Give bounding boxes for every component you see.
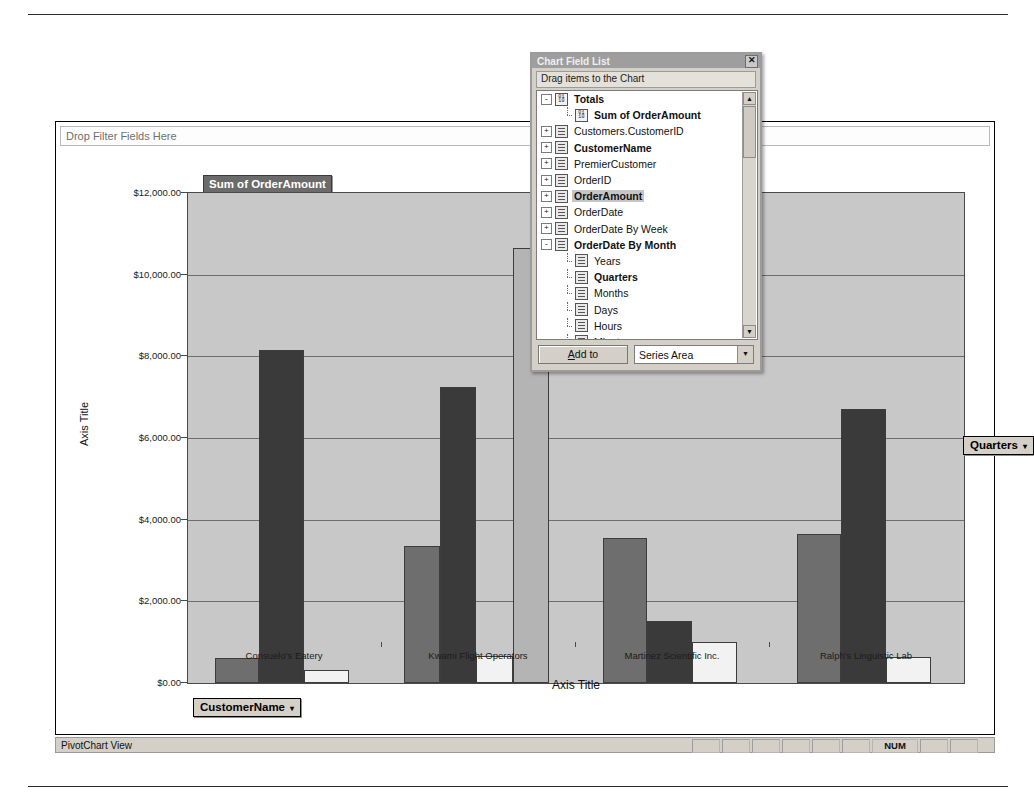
dialog-title-bar[interactable]: Chart Field List ✕ <box>532 54 760 68</box>
field-tree-item[interactable]: Years <box>537 253 757 269</box>
scroll-down-icon[interactable]: ▼ <box>743 325 756 338</box>
data-field-icon <box>555 174 568 187</box>
chart-bar[interactable] <box>440 387 476 683</box>
chart-bar[interactable] <box>841 409 886 683</box>
expand-icon[interactable]: + <box>541 126 552 137</box>
field-tree-item-label: Months <box>592 287 630 299</box>
data-field-icon <box>555 125 568 138</box>
field-tree-item[interactable]: 0110Sum of OrderAmount <box>537 107 757 123</box>
status-view-label: PivotChart View <box>61 740 132 751</box>
expand-icon[interactable]: + <box>541 158 552 169</box>
y-axis-title[interactable]: Axis Title <box>78 402 90 446</box>
chart-bar[interactable] <box>259 350 304 683</box>
close-icon[interactable]: ✕ <box>745 55 758 68</box>
field-tree-item[interactable]: Quarters <box>537 269 757 285</box>
tree-connector-icon <box>563 107 572 123</box>
expand-icon[interactable]: + <box>541 223 552 234</box>
field-tree-scrollbar[interactable]: ▲ ▼ <box>742 92 756 338</box>
field-tree-item[interactable]: +Customers.CustomerID <box>537 123 757 139</box>
field-tree-item-label: Sum of OrderAmount <box>592 109 703 121</box>
collapse-icon[interactable]: - <box>541 239 552 250</box>
totals-field-icon: 0110 <box>555 93 568 106</box>
chart-bar[interactable] <box>404 546 440 683</box>
scrollbar-thumb[interactable] <box>743 106 756 158</box>
status-cell <box>782 739 810 753</box>
field-tree-item[interactable]: +OrderID <box>537 172 757 188</box>
chart-area: Sum of OrderAmount $12,000.00$10,000.00$… <box>60 150 990 698</box>
data-field-icon <box>555 157 568 170</box>
dialog-title-label: Chart Field List <box>537 56 610 67</box>
x-axis-tick-mark <box>575 642 576 647</box>
x-axis-tick-label: Ralph's Linguistic Lab <box>769 650 963 661</box>
field-tree-item[interactable]: +OrderDate <box>537 204 757 220</box>
field-tree-item-label: Hours <box>592 320 624 332</box>
status-cell <box>950 739 978 753</box>
y-axis-tick-label: $2,000.00 <box>139 595 187 606</box>
field-tree-item[interactable]: -OrderDate By Month <box>537 237 757 253</box>
field-tree-item[interactable]: +OrderDate By Week <box>537 221 757 237</box>
field-tree-item-label: Days <box>592 304 620 316</box>
pivotchart-window: Drop Filter Fields Here Sum of OrderAmou… <box>55 121 995 735</box>
add-to-button[interactable]: Add to <box>538 345 628 364</box>
field-tree-item-label: PremierCustomer <box>572 158 658 170</box>
field-tree-item-label: Totals <box>572 93 606 105</box>
data-field-icon <box>575 254 588 267</box>
collapse-icon[interactable]: - <box>541 94 552 105</box>
x-axis-tick-mark <box>381 642 382 647</box>
field-tree-item[interactable]: +OrderAmount <box>537 188 757 204</box>
field-tree-item-label: CustomerName <box>572 142 654 154</box>
y-axis-tick-label: $4,000.00 <box>139 513 187 524</box>
field-tree-item[interactable]: -0110Totals <box>537 91 757 107</box>
scroll-up-icon[interactable]: ▲ <box>743 92 756 105</box>
chevron-down-icon: ▼ <box>737 346 753 363</box>
status-cell <box>812 739 840 753</box>
field-tree-item-label: Customers.CustomerID <box>572 125 686 137</box>
target-area-select[interactable]: Series Area ▼ <box>634 345 754 364</box>
field-tree-item[interactable]: Months <box>537 285 757 301</box>
expand-icon[interactable]: + <box>541 142 552 153</box>
field-tree-item[interactable]: +PremierCustomer <box>537 156 757 172</box>
chart-bar[interactable] <box>603 538 648 683</box>
resize-grip-icon[interactable] <box>980 739 992 751</box>
status-bar: PivotChart View NUM <box>55 737 995 753</box>
filter-drop-zone[interactable]: Drop Filter Fields Here <box>60 126 990 146</box>
field-tree-item[interactable]: Days <box>537 301 757 317</box>
field-tree-item-label: Quarters <box>592 271 640 283</box>
add-to-accel: A <box>568 348 575 360</box>
field-tree-item-label: OrderDate By Month <box>572 239 678 251</box>
field-tree-item[interactable]: Minutes <box>537 334 757 340</box>
field-button-customername[interactable]: CustomerName▾ <box>193 698 301 717</box>
x-axis-tick-label: Consuelo's Eatery <box>187 650 381 661</box>
tree-connector-icon <box>563 318 572 334</box>
status-cell <box>842 739 870 753</box>
field-button-customername-label: CustomerName <box>200 701 285 713</box>
chevron-down-icon: ▾ <box>1023 442 1027 451</box>
status-cell <box>920 739 948 753</box>
y-axis-tick-label: $12,000.00 <box>133 187 187 198</box>
field-button-quarters-label: Quarters <box>970 439 1018 451</box>
add-to-rest: dd to <box>575 348 598 360</box>
data-field-icon <box>575 287 588 300</box>
expand-icon[interactable]: + <box>541 175 552 186</box>
field-tree-item-label: OrderAmount <box>572 190 644 202</box>
field-tree-item[interactable]: +CustomerName <box>537 140 757 156</box>
data-field-icon <box>575 303 588 316</box>
tree-connector-icon <box>563 334 572 340</box>
data-field-icon <box>575 335 588 340</box>
tree-connector-icon <box>563 253 572 269</box>
chart-field-list-dialog: Chart Field List ✕ Drag items to the Cha… <box>530 52 762 372</box>
y-axis-tick-label: $6,000.00 <box>139 432 187 443</box>
expand-icon[interactable]: + <box>541 207 552 218</box>
field-button-quarters[interactable]: Quarters▾ <box>963 436 1034 455</box>
chart-bar[interactable] <box>692 642 737 683</box>
status-num-indicator: NUM <box>872 739 918 753</box>
field-tree[interactable]: -0110Totals0110Sum of OrderAmount+Custom… <box>536 90 758 340</box>
field-tree-item[interactable]: Hours <box>537 318 757 334</box>
expand-icon[interactable]: + <box>541 191 552 202</box>
target-area-value: Series Area <box>639 349 693 361</box>
x-axis-title[interactable]: Axis Title <box>187 678 965 692</box>
tree-connector-icon <box>563 285 572 301</box>
status-cells: NUM <box>692 739 992 751</box>
field-tree-item-label: Minutes <box>592 336 633 340</box>
x-axis-tick-label: Kwami Flight Operators <box>381 650 575 661</box>
